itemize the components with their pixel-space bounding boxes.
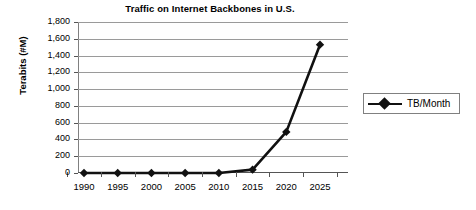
- y-tick-label: 1,200: [26, 66, 70, 76]
- chart-title: Traffic on Internet Backbones in U.S.: [60, 3, 360, 14]
- y-tick-label: 800: [26, 100, 70, 110]
- y-tick-mark: [74, 173, 78, 174]
- y-tick-mark: [74, 39, 78, 40]
- x-tick-mark: [337, 172, 338, 177]
- x-tick-label: 2025: [300, 181, 340, 192]
- data-point-marker[interactable]: [181, 169, 189, 177]
- y-tick-mark: [74, 106, 78, 107]
- y-tick-mark: [74, 72, 78, 73]
- x-tick-mark: [135, 172, 136, 177]
- legend-label: TB/Month: [407, 98, 450, 109]
- legend-swatch: [368, 97, 402, 111]
- data-point-marker[interactable]: [215, 169, 223, 177]
- diamond-marker-icon: [378, 97, 391, 110]
- y-tick-label: 1,400: [26, 50, 70, 60]
- chart-legend[interactable]: TB/Month: [363, 93, 460, 114]
- x-tick-mark: [303, 172, 304, 177]
- y-tick-label: 1,000: [26, 83, 70, 93]
- y-tick-label: 200: [26, 150, 70, 160]
- series-line-tb-month: [84, 45, 320, 173]
- y-tick-mark: [74, 56, 78, 57]
- y-tick-label: 400: [26, 133, 70, 143]
- y-tick-label: 1,600: [26, 33, 70, 43]
- data-point-marker[interactable]: [316, 40, 324, 48]
- y-tick-mark: [74, 89, 78, 90]
- x-tick-mark: [101, 172, 102, 177]
- y-tick-mark: [74, 139, 78, 140]
- series-layer: [78, 22, 348, 173]
- x-tick-mark: [202, 172, 203, 177]
- y-tick-label: 600: [26, 117, 70, 127]
- y-tick-label: 0: [26, 167, 70, 177]
- chart-container: Traffic on Internet Backbones in U.S. Te…: [0, 0, 476, 210]
- x-tick-mark: [269, 172, 270, 177]
- data-point-marker[interactable]: [114, 169, 122, 177]
- x-tick-mark: [236, 172, 237, 177]
- legend-entry-tb-month[interactable]: TB/Month: [364, 94, 459, 113]
- data-point-marker[interactable]: [147, 169, 155, 177]
- y-tick-label: 1,800: [26, 16, 70, 26]
- y-tick-mark: [74, 156, 78, 157]
- data-point-marker[interactable]: [80, 169, 88, 177]
- plot-area: [78, 22, 348, 173]
- x-tick-mark: [168, 172, 169, 177]
- y-tick-mark: [74, 22, 78, 23]
- y-tick-mark: [74, 123, 78, 124]
